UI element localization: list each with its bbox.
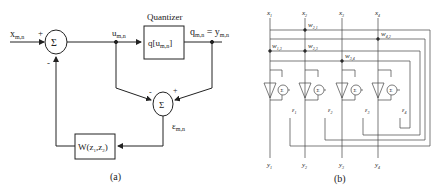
panel-b-labels: x1 x2 x3 x4 w2,1 w4,2 w1,3 w2,3 w3,4 Σ Σ… <box>266 9 406 185</box>
output-y4: y4 <box>374 161 380 170</box>
feedback-bus-4 <box>270 61 410 128</box>
sum1-symbol: Σ <box>51 37 57 48</box>
feedback-line <box>56 57 75 146</box>
caption-b: (b) <box>334 173 346 185</box>
error-cell-3 <box>336 70 363 100</box>
feedback-bus-3 <box>270 51 420 135</box>
sum1-minus-sign: - <box>47 58 50 68</box>
filter-label: W(z1,z2) <box>78 142 108 153</box>
weight-label-w21: w2,1 <box>308 21 318 31</box>
panel-a-block-diagram <box>10 26 222 159</box>
sum-symbol-4: Σ <box>390 88 393 93</box>
weight-label-w23: w2,3 <box>308 42 318 52</box>
error-label-3: ε3 <box>365 107 369 115</box>
sum2-plus-sign: + <box>173 86 178 95</box>
weight-node-w42 <box>377 38 380 41</box>
u-to-sum2-line <box>116 42 151 100</box>
sum1-plus-sign: + <box>38 28 43 38</box>
input-x2: x2 <box>301 9 307 18</box>
weight-node-w34 <box>341 60 344 63</box>
input-x4: x4 <box>374 9 380 18</box>
input-label: xm,n <box>10 28 24 40</box>
error-label-2: ε2 <box>328 107 332 115</box>
caption-a: (a) <box>110 171 121 183</box>
error-line <box>118 116 163 146</box>
error-cell-4 <box>372 70 400 100</box>
quantizer-title: Quantizer <box>147 12 182 22</box>
weight-label-w13: w1,3 <box>272 42 282 52</box>
weight-node-w21 <box>304 29 307 32</box>
sum-symbol-1: Σ <box>281 88 284 93</box>
error-label: εm,n <box>172 121 185 132</box>
u-label: um,n <box>112 28 126 39</box>
weight-node-w23 <box>304 50 307 53</box>
q-equals-y-label: qm,n = ym,n <box>190 26 229 38</box>
q-to-sum2-line <box>175 42 212 100</box>
panel-a-labels: xm,n + - Σ um,n Quantizer q[um,n] qm,n =… <box>10 12 229 183</box>
output-y1: y1 <box>266 161 272 170</box>
feedback-bus-1 <box>270 30 430 146</box>
error-label-1: ε1 <box>292 107 296 115</box>
weight-label-w34: w3,4 <box>345 52 355 62</box>
sum2-symbol: Σ <box>159 100 164 110</box>
error-label-4: ε4 <box>402 107 406 115</box>
sum-symbol-3: Σ <box>354 88 357 93</box>
figure: xm,n + - Σ um,n Quantizer q[um,n] qm,n =… <box>0 0 441 189</box>
panel-b-network <box>264 18 430 158</box>
output-y3: y3 <box>338 161 344 170</box>
output-y2: y2 <box>301 161 307 170</box>
input-x3: x3 <box>338 9 344 18</box>
input-x1: x1 <box>266 9 272 18</box>
quantizer-function: q[um,n] <box>148 38 172 49</box>
sum-symbol-2: Σ <box>317 88 320 93</box>
error-cell-1 <box>264 70 290 100</box>
sum2-minus-sign: - <box>149 88 152 97</box>
weight-node-w13 <box>269 50 272 53</box>
weight-label-w42: w4,2 <box>381 30 391 40</box>
error-cell-2 <box>299 70 326 100</box>
